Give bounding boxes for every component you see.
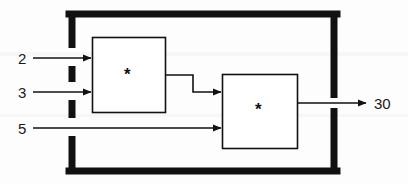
diagram-vector-layer (0, 0, 408, 184)
input-label-5: 5 (18, 121, 26, 136)
output-label-30: 30 (374, 96, 391, 111)
input-label-3: 3 (18, 85, 26, 100)
multiplier-1-symbol: * (124, 66, 131, 83)
diagram-canvas: 2 3 5 30 * * (0, 0, 408, 184)
multiplier-2-symbol: * (255, 101, 262, 118)
edge-multiplier1-to-multiplier2 (165, 75, 221, 92)
input-label-2: 2 (18, 51, 26, 66)
